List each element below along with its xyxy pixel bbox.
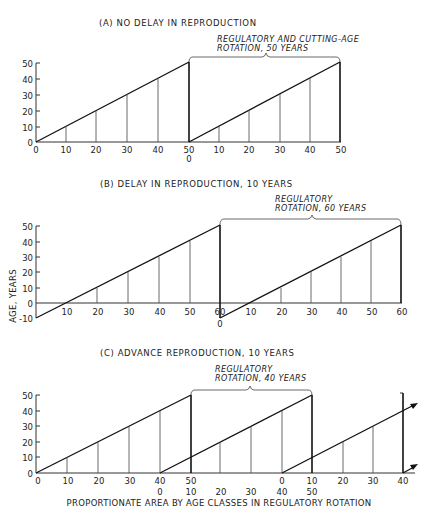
svg-text:-10: -10: [19, 314, 33, 324]
panel-b: (B) DELAY IN REPRODUCTION, 10 YEARS REGU…: [8, 179, 407, 329]
panel-a-y-ticks: 50 40 30 20 10 0: [22, 59, 33, 148]
svg-text:60: 60: [215, 307, 226, 317]
svg-text:30: 30: [125, 476, 136, 486]
svg-text:30: 30: [307, 307, 318, 317]
panel-b-y-ticks: 50 40 30 20 10 0 -10: [19, 222, 33, 324]
y-axis-label: AGE, YEARS: [8, 269, 18, 323]
svg-text:30: 30: [22, 91, 33, 101]
svg-text:30: 30: [124, 307, 135, 317]
svg-text:30: 30: [275, 145, 286, 155]
svg-text:50: 50: [367, 307, 378, 317]
svg-text:20: 20: [93, 307, 104, 317]
svg-text:50: 50: [186, 476, 197, 486]
svg-text:40: 40: [305, 145, 316, 155]
svg-text:0: 0: [35, 476, 40, 486]
svg-text:40: 40: [277, 487, 288, 497]
panel-c-title: (C) ADVANCE REPRODUCTION, 10 YEARS: [100, 348, 294, 358]
svg-text:20: 20: [94, 476, 105, 486]
svg-text:20: 20: [91, 145, 102, 155]
svg-text:10: 10: [186, 487, 197, 497]
svg-text:20: 20: [22, 107, 33, 117]
svg-text:60: 60: [397, 307, 408, 317]
svg-text:0: 0: [28, 299, 33, 309]
svg-text:10: 10: [22, 284, 33, 294]
svg-text:10: 10: [22, 123, 33, 133]
svg-text:40: 40: [155, 307, 166, 317]
svg-text:0: 0: [186, 154, 191, 164]
panel-a-title: (A) NO DELAY IN REPRODUCTION: [99, 18, 257, 28]
svg-text:10: 10: [246, 307, 257, 317]
svg-text:10: 10: [214, 145, 225, 155]
panel-c-y-ticks: 50 40 30 20 10 0: [22, 391, 33, 479]
panel-a-note-line1: REGULATORY AND CUTTING-AGE: [217, 35, 360, 44]
svg-text:40: 40: [22, 75, 33, 85]
svg-text:20: 20: [216, 487, 227, 497]
svg-text:0: 0: [157, 487, 162, 497]
svg-text:10: 10: [22, 453, 33, 463]
svg-text:50: 50: [22, 391, 33, 401]
svg-text:50: 50: [185, 307, 196, 317]
panel-a: (A) NO DELAY IN REPRODUCTION REGULATORY …: [22, 18, 359, 164]
svg-text:0: 0: [279, 476, 284, 486]
svg-text:0: 0: [28, 469, 33, 479]
svg-text:20: 20: [22, 438, 33, 448]
svg-text:30: 30: [122, 145, 133, 155]
svg-text:30: 30: [22, 422, 33, 432]
svg-text:50: 50: [22, 222, 33, 232]
panel-a-brace: [189, 53, 340, 62]
panel-b-note-line2: ROTATION, 60 YEARS: [275, 204, 367, 213]
svg-text:0: 0: [33, 145, 38, 155]
svg-text:30: 30: [368, 476, 379, 486]
svg-text:0: 0: [28, 138, 33, 148]
svg-text:20: 20: [244, 145, 255, 155]
panel-c-note-line2: ROTATION, 40 YEARS: [215, 374, 307, 383]
svg-text:30: 30: [246, 487, 257, 497]
x-axis-label: PROPORTIONATE AREA BY AGE CLASSES IN REG…: [67, 498, 372, 508]
svg-text:20: 20: [338, 476, 349, 486]
panel-c-note-line1: REGULATORY: [215, 365, 273, 374]
svg-text:40: 40: [153, 145, 164, 155]
svg-text:50: 50: [336, 145, 347, 155]
panel-c-brace: [191, 386, 312, 395]
arrow-head-icon: [410, 403, 418, 409]
svg-text:0: 0: [217, 319, 222, 329]
svg-text:10: 10: [62, 307, 73, 317]
panel-b-brace: [220, 215, 401, 225]
svg-text:20: 20: [277, 307, 288, 317]
panel-c-x-ticks: 0 10 20 30 40 50 0 10 20 30 40 0 10 20 3…: [35, 476, 408, 497]
svg-text:10: 10: [63, 476, 74, 486]
svg-text:40: 40: [155, 476, 166, 486]
svg-text:40: 40: [398, 476, 409, 486]
svg-text:50: 50: [22, 59, 33, 69]
svg-text:50: 50: [307, 487, 318, 497]
svg-text:10: 10: [307, 476, 318, 486]
svg-text:10: 10: [61, 145, 72, 155]
panel-b-note-line1: REGULATORY: [275, 195, 333, 204]
svg-text:20: 20: [22, 268, 33, 278]
svg-text:40: 40: [22, 407, 33, 417]
svg-text:40: 40: [22, 238, 33, 248]
svg-text:30: 30: [22, 253, 33, 263]
panel-a-note-line2: ROTATION, 50 YEARS: [217, 44, 309, 53]
panel-b-title: (B) DELAY IN REPRODUCTION, 10 YEARS: [100, 179, 293, 189]
forest-rotation-diagram: (A) NO DELAY IN REPRODUCTION REGULATORY …: [0, 0, 430, 519]
svg-text:40: 40: [337, 307, 348, 317]
panel-c: (C) ADVANCE REPRODUCTION, 10 YEARS REGUL…: [22, 348, 418, 508]
panel-a-x-ticks: 0 10 20 30 40 50 10 20 30 40 50 0: [33, 145, 346, 164]
